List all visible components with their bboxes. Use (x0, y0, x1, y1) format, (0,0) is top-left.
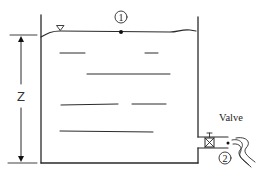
free-surface-line (41, 30, 196, 37)
point-1-label: 1 (119, 12, 124, 23)
height-label: Z (17, 89, 25, 104)
point-1-marker: 1 (115, 11, 127, 23)
free-surface-marker-icon (57, 26, 65, 31)
jet-stream-icon (232, 138, 255, 167)
point-2-marker: 2 (219, 152, 231, 164)
water-lines (60, 53, 170, 132)
height-dimension: Z (8, 35, 37, 163)
tank-diagram: Valve 1 2 Z (0, 0, 259, 180)
valve-icon (205, 133, 214, 147)
tank (41, 15, 198, 163)
point-1-dot (119, 30, 123, 34)
point-2-label: 2 (223, 153, 228, 164)
arrow-up-icon (18, 36, 24, 42)
point-2-dot (227, 142, 230, 145)
arrow-down-icon (18, 156, 24, 162)
valve-label: Valve (219, 112, 243, 123)
